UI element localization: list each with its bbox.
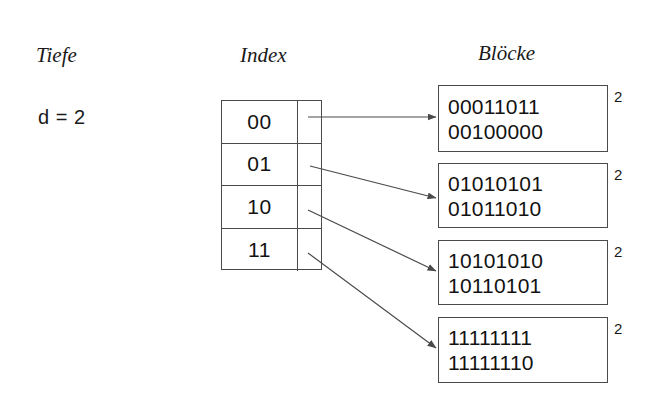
block-0-line-0: 00011011 <box>448 94 607 119</box>
index-key-10: 10 <box>222 186 298 228</box>
block-2-line-0: 10101010 <box>448 248 607 273</box>
index-row-00[interactable]: 00 <box>222 101 321 144</box>
index-row-11[interactable]: 11 <box>222 229 321 272</box>
index-key-11: 11 <box>222 229 298 272</box>
block-1-local-depth: 2 <box>614 166 622 183</box>
diagram-canvas: Tiefe Index Blöcke d = 2 00 01 10 11 000… <box>0 0 656 403</box>
index-directory-table: 00 01 10 11 <box>221 100 322 270</box>
index-pointer-cell-01[interactable] <box>298 144 321 186</box>
index-row-01[interactable]: 01 <box>222 144 321 187</box>
pointer-01-to-block-1-arrow <box>310 166 436 198</box>
index-key-00: 00 <box>222 101 298 143</box>
global-depth-value: d = 2 <box>38 106 86 129</box>
index-pointer-cell-11[interactable] <box>298 229 321 272</box>
index-pointer-cell-10[interactable] <box>298 186 321 228</box>
block-3[interactable]: 11111111 11111110 <box>438 317 608 383</box>
block-2[interactable]: 10101010 10110101 <box>438 240 608 305</box>
pointer-11-to-block-3-arrow <box>308 253 436 348</box>
heading-bloecke: Blöcke <box>478 41 535 66</box>
block-2-local-depth: 2 <box>614 243 622 260</box>
block-3-line-0: 11111111 <box>448 325 607 350</box>
heading-index: Index <box>240 43 287 68</box>
index-row-10[interactable]: 10 <box>222 186 321 229</box>
block-1-line-1: 01011010 <box>448 196 607 221</box>
block-3-line-1: 11111110 <box>448 350 607 375</box>
index-key-01: 01 <box>222 144 298 186</box>
block-0-local-depth: 2 <box>614 88 622 105</box>
block-1-line-0: 01010101 <box>448 171 607 196</box>
block-0-line-1: 00100000 <box>448 119 607 144</box>
block-1[interactable]: 01010101 01011010 <box>438 163 608 228</box>
block-2-line-1: 10110101 <box>448 273 607 298</box>
heading-tiefe: Tiefe <box>36 43 77 68</box>
block-0[interactable]: 00011011 00100000 <box>438 85 608 152</box>
block-3-local-depth: 2 <box>614 320 622 337</box>
pointer-10-to-block-2-arrow <box>308 210 436 271</box>
index-pointer-cell-00[interactable] <box>298 101 321 143</box>
